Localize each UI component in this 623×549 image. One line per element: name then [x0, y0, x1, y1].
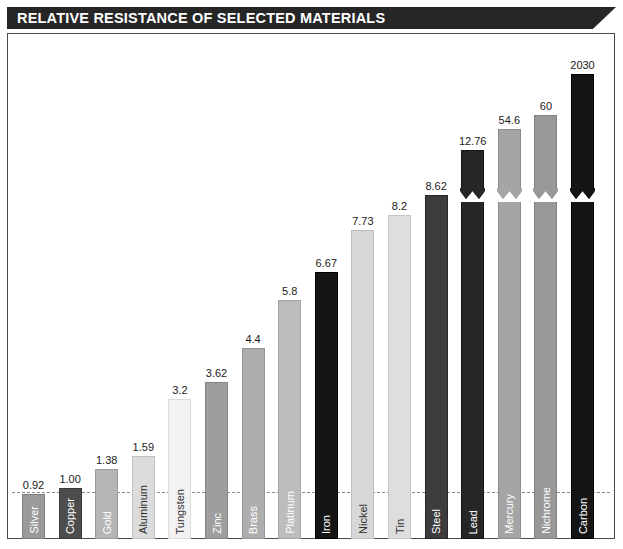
bar-value-label: 5.8 [282, 285, 297, 297]
bar-group: 1.00Copper [59, 448, 82, 539]
bar-platinum[interactable] [278, 300, 301, 539]
bar-iron[interactable] [315, 272, 338, 539]
bar-group: 5.8Platinum [278, 260, 301, 539]
bar-group: 12.76Lead [461, 110, 484, 539]
bar-value-label: 12.76 [459, 135, 487, 147]
bar-mercury[interactable] [498, 129, 521, 539]
bar-value-label: 8.62 [425, 180, 446, 192]
bar-group: 8.2Tin [388, 175, 411, 539]
bar-nickel[interactable] [351, 230, 374, 539]
bar-group: 54.6Mercury [498, 89, 521, 539]
bar-value-label: 4.4 [245, 333, 260, 345]
bar-value-label: 1.38 [96, 454, 117, 466]
bar-group: 3.2Tungsten [168, 359, 191, 539]
bar-value-label: 7.73 [352, 215, 373, 227]
bar-brass[interactable] [242, 348, 265, 539]
bar-steel[interactable] [425, 195, 448, 539]
bar-group: 60Nichrome [534, 75, 557, 539]
bar-group: 0.92Silver [22, 454, 45, 539]
bar-value-label: 8.2 [392, 200, 407, 212]
bar-group: 1.59Aluminum [132, 416, 155, 539]
bar-value-label: 0.92 [23, 479, 44, 491]
bar-nichrome[interactable] [534, 115, 557, 539]
bar-value-label: 3.2 [172, 384, 187, 396]
bar-value-label: 60 [540, 100, 552, 112]
bar-tungsten[interactable] [168, 399, 191, 539]
bar-zinc[interactable] [205, 382, 228, 539]
bar-group: 3.62Zinc [205, 342, 228, 539]
bar-group: 4.4Brass [242, 308, 265, 539]
bar-silver[interactable] [22, 494, 45, 539]
bar-value-label: 2030 [570, 59, 594, 71]
bar-value-label: 54.6 [499, 114, 520, 126]
bar-value-label: 1.59 [133, 441, 154, 453]
bar-value-label: 1.00 [59, 473, 80, 485]
bar-group: 6.67Iron [315, 232, 338, 539]
header-banner: RELATIVE RESISTANCE OF SELECTED MATERIAL… [7, 7, 616, 29]
bar-copper[interactable] [59, 488, 82, 539]
plot-area: 0.92Silver1.00Copper1.38Gold1.59Aluminum… [8, 34, 614, 538]
bar-lead[interactable] [461, 150, 484, 539]
bar-group: 8.62Steel [425, 155, 448, 539]
bar-aluminum[interactable] [132, 456, 155, 539]
page-title: RELATIVE RESISTANCE OF SELECTED MATERIAL… [17, 10, 385, 26]
bar-carbon[interactable] [571, 74, 594, 539]
bar-tin[interactable] [388, 215, 411, 539]
bar-group: 2030Carbon [571, 34, 594, 539]
bar-value-label: 3.62 [206, 367, 227, 379]
bar-group: 1.38Gold [95, 429, 118, 539]
bar-gold[interactable] [95, 469, 118, 539]
bar-value-label: 6.67 [316, 257, 337, 269]
chart-frame: 0.92Silver1.00Copper1.38Gold1.59Aluminum… [7, 33, 615, 539]
bar-group: 7.73Nickel [351, 190, 374, 539]
